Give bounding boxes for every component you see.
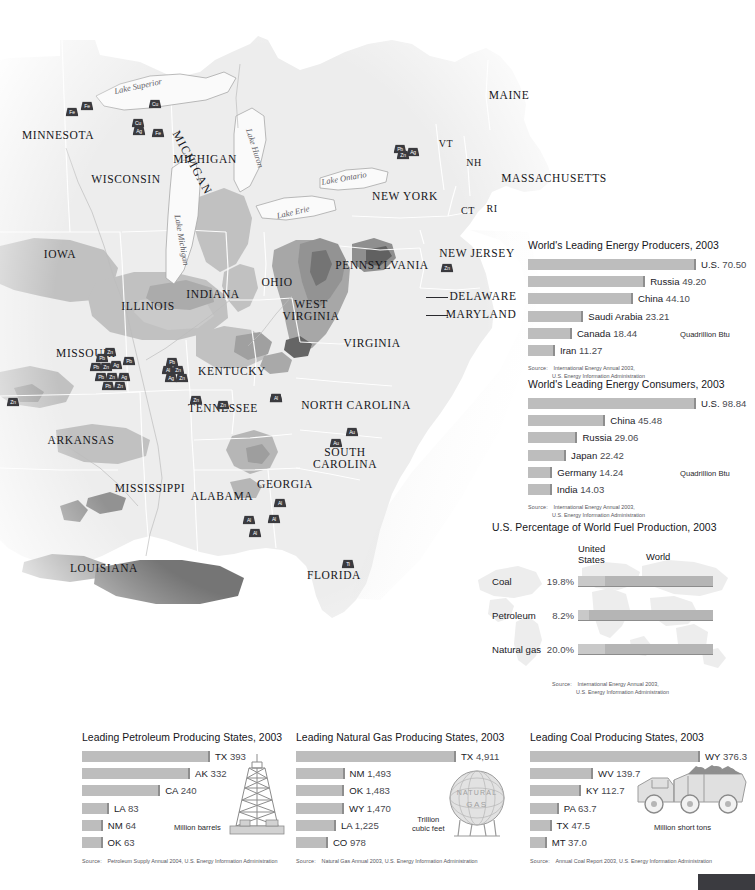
bar-label: TX 47.5	[557, 820, 591, 831]
bar-label: NM 1,493	[350, 768, 392, 779]
bar	[82, 785, 160, 796]
source-label: Source:	[528, 504, 548, 510]
mine-symbol-zn[interactable]: Zn	[441, 264, 454, 273]
mine-symbol-fe[interactable]: Fe	[81, 102, 94, 111]
bar-label: U.S. 98.84	[701, 398, 746, 409]
mine-symbol-al[interactable]: Al	[249, 529, 262, 538]
bar-label: Saudi Arabia 23.21	[588, 311, 669, 322]
mine-symbol-ag[interactable]: Ag	[110, 361, 123, 370]
bar	[82, 820, 103, 831]
unit-label: Million short tons	[654, 824, 711, 833]
bar	[528, 432, 577, 443]
bar-label: China 45.48	[610, 415, 662, 426]
col-world-label: World	[646, 551, 670, 562]
mine-symbol-fe[interactable]: Fe	[66, 108, 79, 117]
source-label: Source:	[82, 858, 102, 864]
bar-label: WY 1,470	[349, 803, 391, 814]
mine-symbol-zn[interactable]: Zn	[114, 382, 127, 391]
mine-symbol-ag[interactable]: Ag	[407, 148, 420, 157]
us-fuel-production-chart: U.S. Percentage of World Fuel Production…	[470, 522, 750, 702]
col-us-line2: States	[578, 554, 605, 565]
chart-source: Source: International Energy Annual 2003…	[552, 680, 669, 696]
mine-symbol-ag[interactable]: Ag	[133, 127, 146, 136]
bar-label: OK 1,483	[349, 785, 390, 796]
bar-row: TX 47.5	[530, 819, 752, 833]
bar-label: LA 1,225	[341, 820, 379, 831]
fuel-row: Coal19.8%	[470, 574, 740, 590]
chart-title: U.S. Percentage of World Fuel Production…	[492, 522, 716, 533]
bar-label: CA 240	[165, 785, 196, 796]
bar-row: Russia 29.06	[528, 431, 750, 445]
bar-label: PA 63.7	[564, 803, 597, 814]
bar-label: CO 978	[333, 837, 366, 848]
bar	[528, 450, 566, 461]
chart-title: World's Leading Energy Consumers, 2003	[528, 379, 750, 390]
bar	[528, 345, 555, 356]
bar	[528, 328, 572, 339]
bar-label: Russia 49.20	[650, 276, 706, 287]
source-label: Source:	[296, 858, 316, 864]
bar-row: U.S. 98.84	[528, 396, 750, 410]
mine-symbol-al[interactable]: Al	[243, 516, 256, 525]
bar-label: OK 63	[108, 837, 135, 848]
source-line-1: Petroleum Supply Annual 2004, U.S. Energ…	[107, 858, 277, 864]
chart-source: Source: Annual Coal Report 2003, U.S. En…	[530, 857, 752, 865]
mine-symbol-ag[interactable]: Ag	[118, 373, 131, 382]
bar	[296, 785, 344, 796]
mine-symbol-fe[interactable]: Fe	[152, 129, 165, 138]
bar-label: LA 83	[114, 803, 139, 814]
chart-source: Source: International Energy Annual 2003…	[528, 364, 750, 380]
page-edge-tab	[698, 874, 755, 890]
source-line-1: International Energy Annual 2003,	[553, 504, 634, 510]
source-line-1: Annual Coal Report 2003, U.S. Energy Inf…	[555, 858, 711, 864]
bar-row: China 44.10	[528, 292, 750, 306]
bar	[82, 768, 190, 779]
bar-label: WY 376.3	[705, 751, 747, 762]
bar-row: WY 376.3	[530, 749, 752, 763]
bar-label: MT 37.0	[552, 837, 587, 848]
col-us-line1: United	[578, 543, 605, 554]
fuel-us-share	[578, 610, 589, 620]
bar-label: NM 64	[108, 820, 136, 831]
mine-symbol-al[interactable]: Al	[268, 515, 281, 524]
bar-row: CA 240	[82, 784, 232, 798]
mine-symbol-au[interactable]: Au	[346, 428, 359, 437]
energy-resources-map-page: MICHIGAN MINNESOTAWISCONSINMICHIGANIOWAI…	[0, 0, 755, 890]
chart-title: World's Leading Energy Producers, 2003	[528, 240, 750, 251]
mine-symbol-zn[interactable]: Zn	[190, 396, 203, 405]
energy-consumers-chart: World's Leading Energy Consumers, 2003 U…	[528, 379, 750, 519]
bar-label: AK 332	[195, 768, 226, 779]
bar	[528, 276, 645, 287]
mine-symbol-ti[interactable]: Ti	[342, 560, 355, 569]
bar	[528, 398, 696, 409]
unit-line2: cubic feet	[412, 824, 445, 833]
mine-symbol-zn[interactable]: Zn	[7, 398, 20, 407]
mine-symbol-al[interactable]: Al	[270, 394, 283, 403]
mine-symbol-pb[interactable]: Pb	[123, 357, 136, 366]
energy-producers-chart: World's Leading Energy Producers, 2003 U…	[528, 240, 750, 380]
bar	[82, 751, 210, 762]
bar	[296, 837, 328, 848]
source-label: Source:	[552, 681, 572, 687]
bar-list: TX 393AK 332CA 240LA 83NM 64OK 63	[82, 749, 232, 850]
mine-symbol-al[interactable]: Al	[274, 499, 287, 508]
chart-title: Leading Petroleum Producing States, 2003	[82, 732, 292, 743]
bar	[528, 311, 583, 322]
bar-row: LA 83	[82, 801, 232, 815]
mine-symbol-zn[interactable]: Zn	[104, 348, 117, 357]
mine-symbol-au[interactable]: Au	[330, 439, 343, 448]
bar	[528, 259, 696, 270]
bar	[296, 768, 345, 779]
bar-list: U.S. 98.84China 45.48Russia 29.06Japan 2…	[528, 396, 750, 497]
tank-text-line2: GAS	[466, 800, 487, 809]
mine-symbol-zn[interactable]: Zn	[176, 374, 189, 383]
fuel-percentage: 19.8%	[530, 576, 574, 587]
mine-symbol-cu[interactable]: Cu	[149, 100, 162, 109]
bar	[296, 820, 336, 831]
bar	[530, 768, 593, 779]
bar-label: China 44.10	[638, 293, 690, 304]
chart-source: Source: Petroleum Supply Annual 2004, U.…	[82, 857, 292, 865]
tank-text-line1: NATURAL	[457, 789, 498, 796]
bar	[528, 484, 552, 495]
mine-symbol-zn[interactable]: Zn	[217, 401, 230, 410]
